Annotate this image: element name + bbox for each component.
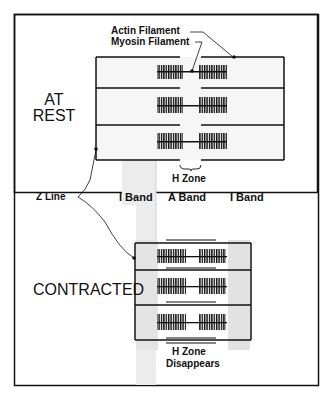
- at-rest-label-line1: AT: [32, 92, 76, 108]
- h-zone-disappears-label-line1: H Zone: [172, 347, 206, 357]
- i-band-shade-right: [228, 240, 250, 350]
- h-zone-brace: [180, 165, 201, 171]
- z-line-leader-bottom: [78, 197, 134, 258]
- at-rest-label-line2: REST: [32, 108, 76, 124]
- i-band-left-label: I Band: [119, 192, 153, 203]
- a-band-label: A Band: [168, 192, 206, 203]
- h-zone-label: H Zone: [172, 174, 206, 184]
- rest-sarcomeres: [96, 57, 284, 160]
- z-line-leader-top: [78, 150, 96, 197]
- actin-filament-label: Actin Filament: [111, 26, 180, 36]
- i-band-right-label: I Band: [230, 192, 264, 203]
- z-line-label: Z Line: [36, 192, 65, 202]
- myosin-filament-label: Myosin Filament: [111, 37, 189, 47]
- h-zone-disappears-label-line2: Disappears: [166, 359, 220, 369]
- actin-leader: [190, 32, 233, 57]
- contracted-label: CONTRACTED: [33, 282, 144, 298]
